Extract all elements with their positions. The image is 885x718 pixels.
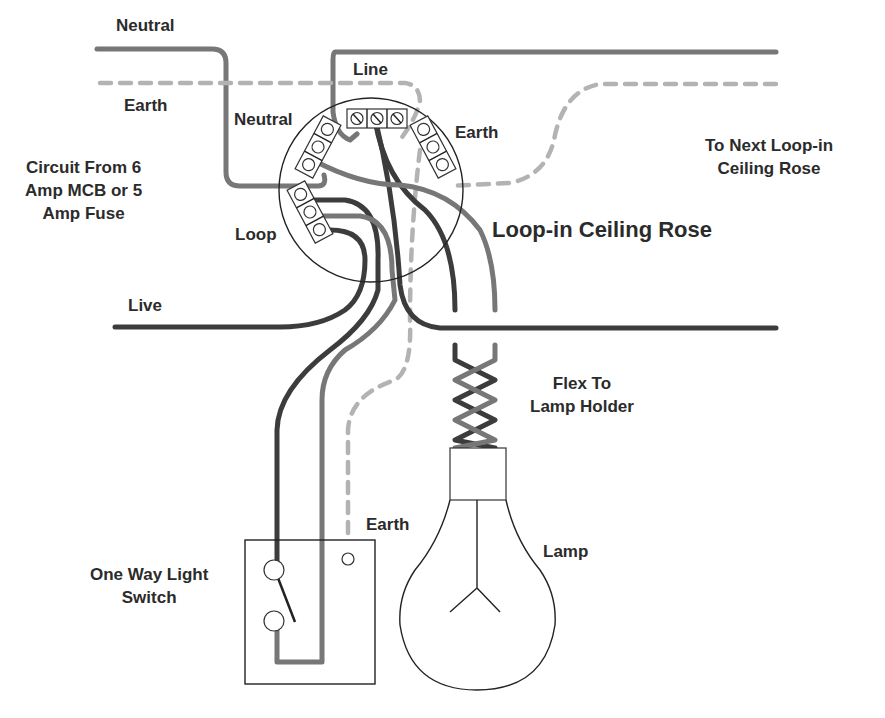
label-rose-title: Loop-in Ceiling Rose [492,218,712,241]
label-line: Line [353,58,388,81]
switch-terminal-top [264,560,284,580]
switch-terminal-bottom [264,611,284,631]
lamp-filament [450,500,500,612]
line-terminal-block [347,109,407,128]
lamp-holder [450,448,506,500]
label-circuit-from: Circuit From 6 Amp MCB or 5 Amp Fuse [25,156,142,225]
label-earth-rose: Earth [455,121,498,144]
flex-cable [455,345,495,448]
label-lamp: Lamp [543,540,588,563]
lamp-neutral-wire [313,160,495,310]
label-earth-switch: Earth [366,513,409,536]
label-loop: Loop [235,223,277,246]
label-flex: Flex To Lamp Holder [530,372,634,418]
label-neutral-supply: Neutral [116,14,175,37]
label-live: Live [128,294,162,317]
earth-switch-wire [348,150,420,540]
switch-earth-terminal [342,553,354,565]
label-switch: One Way Light Switch [90,563,208,609]
label-to-next-rose: To Next Loop-in Ceiling Rose [705,134,833,180]
label-earth-supply: Earth [124,94,167,117]
label-neutral-rose: Neutral [234,108,293,131]
loop-terminal-block [287,181,333,243]
